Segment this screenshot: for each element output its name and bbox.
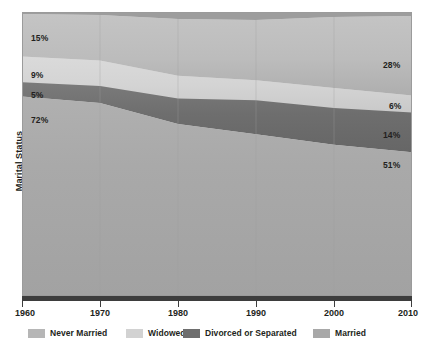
data-label-married-start: 72%	[31, 115, 48, 125]
data-label-widowed-end: 6%	[389, 101, 402, 111]
x-tick-1990	[256, 296, 257, 307]
x-tick-2010	[411, 296, 412, 307]
legend: Never Married Widowed Divorced or Separa…	[22, 326, 412, 342]
legend-swatch-married	[313, 329, 330, 338]
x-tick-label-2000: 2000	[324, 308, 344, 318]
x-axis-bar	[22, 296, 412, 301]
stacked-area-svg	[22, 12, 412, 296]
legend-label-divorced-or-separated: Divorced or Separated	[205, 328, 297, 338]
legend-swatch-never-married	[28, 329, 45, 338]
x-tick-label-1970: 1970	[90, 308, 110, 318]
x-tick-label-2010: 2010	[398, 308, 418, 318]
legend-swatch-widowed	[126, 329, 143, 338]
legend-item-never-married[interactable]: Never Married	[28, 326, 107, 340]
data-label-divorced-end: 14%	[383, 130, 400, 140]
x-tick-label-1990: 1990	[246, 308, 266, 318]
x-tick-label-1980: 1980	[168, 308, 188, 318]
data-label-married-end: 51%	[383, 160, 400, 170]
x-tick-1960	[22, 296, 23, 307]
marital-status-area-chart: Marital Status	[0, 0, 431, 350]
data-label-never-married-start: 15%	[31, 33, 48, 43]
x-tick-label-1960: 1960	[15, 308, 35, 318]
legend-label-widowed: Widowed	[148, 328, 186, 338]
data-label-widowed-start: 9%	[31, 70, 44, 80]
data-label-divorced-start: 5%	[31, 90, 44, 100]
plot-area	[22, 12, 412, 296]
x-tick-2000	[334, 296, 335, 307]
legend-item-divorced-or-separated[interactable]: Divorced or Separated	[183, 326, 297, 340]
legend-label-never-married: Never Married	[50, 328, 107, 338]
x-tick-1970	[100, 296, 101, 307]
data-label-never-married-end: 28%	[383, 60, 400, 70]
x-tick-1980	[178, 296, 179, 307]
legend-item-widowed[interactable]: Widowed	[126, 326, 186, 340]
legend-item-married[interactable]: Married	[313, 326, 366, 340]
legend-swatch-divorced-or-separated	[183, 329, 200, 338]
legend-label-married: Married	[335, 328, 366, 338]
